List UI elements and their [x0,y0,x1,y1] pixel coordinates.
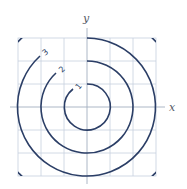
level-label-1: 1 [74,82,84,92]
level-label-3: 3 [41,47,51,57]
axes [10,28,165,184]
level-curves [0,12,182,189]
level-label-2: 2 [57,64,67,74]
y-axis-label: y [82,12,90,25]
x-axis-label: x [169,101,176,114]
contour-plot: x y 1 2 3 [0,0,187,189]
